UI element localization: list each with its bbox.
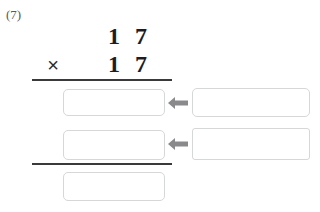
multiplier-ones-digit: 7 xyxy=(132,52,150,76)
total-answer-box[interactable] xyxy=(63,172,165,201)
multiplier-tens-digit: 1 xyxy=(105,52,123,76)
partial-product-1-box[interactable] xyxy=(63,89,165,116)
hint-2-box[interactable] xyxy=(192,128,310,160)
multiplication-rule-bottom xyxy=(32,163,172,165)
hint-1-box[interactable] xyxy=(192,88,310,117)
multiplication-rule-top xyxy=(32,79,172,81)
multiplicand-ones-digit: 7 xyxy=(132,24,150,48)
problem-number-label: (7) xyxy=(6,8,21,21)
arrow-left-icon xyxy=(167,95,189,111)
multiplicand-tens-digit: 1 xyxy=(105,24,123,48)
multiplication-operator: × xyxy=(44,55,62,75)
partial-product-2-box[interactable] xyxy=(63,130,165,160)
arrow-left-icon xyxy=(167,136,189,152)
multiplication-worksheet: (7) 1 7 × 1 7 xyxy=(0,0,320,212)
